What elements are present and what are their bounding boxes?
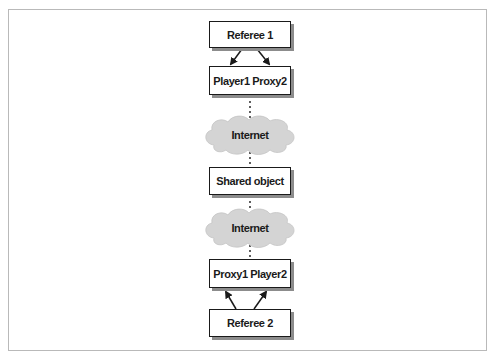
arrow-referee1-to-player1 xyxy=(231,49,242,64)
node-proxy1-player2: Proxy1 Player2 xyxy=(209,259,291,288)
node-internet-top: Internet xyxy=(204,117,296,153)
node-label: Referee 2 xyxy=(227,317,273,329)
node-label: Player1 Proxy2 xyxy=(213,75,286,87)
node-label: Internet xyxy=(231,222,268,234)
node-label: Proxy1 Player2 xyxy=(213,268,286,280)
node-player1-proxy2: Player1 Proxy2 xyxy=(209,66,291,95)
arrow-referee2-to-player2 xyxy=(254,292,266,309)
node-shared-object: Shared object xyxy=(209,167,291,195)
node-label: Shared object xyxy=(216,175,284,187)
arrows-referee1-to-player1proxy2 xyxy=(231,49,269,64)
node-referee-1: Referee 1 xyxy=(209,21,291,48)
node-label: Referee 1 xyxy=(227,29,273,41)
node-label: Internet xyxy=(231,129,268,141)
arrows-referee2-to-proxy1player2 xyxy=(226,292,266,309)
arrow-referee2-to-proxy1 xyxy=(226,292,236,309)
arrow-referee1-to-proxy2 xyxy=(257,49,269,64)
node-internet-bottom: Internet xyxy=(204,210,296,246)
node-referee-2: Referee 2 xyxy=(209,309,291,337)
